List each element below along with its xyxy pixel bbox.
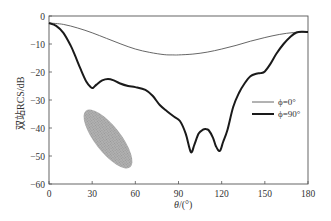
x-axis-label: θ/(°) [174, 199, 192, 211]
y-tick-labels: 0−10−20−30−40−50−60 [30, 12, 45, 190]
y-tick-label: −10 [30, 40, 45, 50]
rcs-line-chart: 0−10−20−30−40−50−60 0306090120150180 ϕ=0… [0, 0, 331, 221]
y-tick-label: −20 [30, 68, 45, 78]
y-axis-label: 双站RCS/dB [14, 76, 26, 130]
plot-frame [49, 16, 308, 184]
x-tick-labels: 0306090120150180 [47, 189, 316, 199]
x-tick-label: 60 [131, 189, 141, 199]
x-tick-label: 0 [47, 189, 52, 199]
x-tick-label: 90 [174, 189, 184, 199]
x-tick-label: 150 [258, 189, 273, 199]
y-tick-label: −60 [30, 180, 45, 190]
legend-label-phi-90: ϕ=90° [278, 109, 301, 119]
x-axis-unit: /(°) [179, 199, 192, 211]
y-tick-label: −50 [30, 152, 45, 162]
x-tick-label: 120 [215, 189, 230, 199]
x-tick-label: 30 [87, 189, 97, 199]
x-tick-label: 180 [301, 189, 316, 199]
y-tick-label: −30 [30, 96, 45, 106]
mesh-ellipsoid-icon [76, 103, 141, 176]
series-phi-0-line [49, 23, 308, 55]
y-tick-label: 0 [40, 12, 45, 22]
series-phi-90-line [49, 23, 308, 152]
legend: ϕ=0° ϕ=90° [252, 97, 301, 119]
axis-ticks [49, 16, 308, 184]
y-tick-label: −40 [30, 124, 45, 134]
inset-target-model [76, 103, 141, 176]
legend-label-phi-0: ϕ=0° [278, 97, 296, 107]
